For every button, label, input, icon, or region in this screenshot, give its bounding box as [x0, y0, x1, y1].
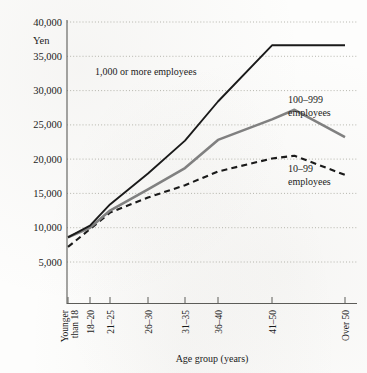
y-tick-label-40000: 40,000 — [33, 17, 62, 28]
series-label-10-99-line2: employees — [288, 176, 331, 187]
series-label-100-999-line1: 100–999 — [288, 94, 323, 105]
series-label-1000-plus: 1,000 or more employees — [95, 66, 197, 77]
chart-svg: 40,000 35,000 30,000 25,000 20,000 15,00… — [0, 0, 367, 373]
x-axis-title: Age group (years) — [176, 353, 249, 365]
x-tick-labels: Younger than 18 18–20 21–25 26–30 31–35 … — [60, 309, 351, 342]
x-tick-label-0-line1: Younger — [60, 309, 70, 342]
x-tick-label-6: 41–50 — [268, 310, 278, 334]
y-tick-label-10000: 10,000 — [33, 222, 62, 233]
x-tick-label-5: 36–40 — [214, 310, 224, 334]
y-tick-label-20000: 20,000 — [33, 154, 62, 165]
y-tick-labels: 40,000 35,000 30,000 25,000 20,000 15,00… — [33, 17, 62, 268]
y-tick-label-15000: 15,000 — [33, 188, 62, 199]
y-tick-label-35000: 35,000 — [33, 51, 62, 62]
x-tick-label-3: 26–30 — [144, 310, 154, 334]
y-tick-label-5000: 5,000 — [38, 257, 62, 268]
x-tick-label-1: 18–20 — [86, 310, 96, 334]
x-tick-label-0-line2: than 18 — [70, 310, 80, 338]
line-chart-figure: 40,000 35,000 30,000 25,000 20,000 15,00… — [0, 0, 367, 373]
x-tick-label-2: 21–25 — [106, 310, 116, 334]
y-tick-label-30000: 30,000 — [33, 85, 62, 96]
x-tick-label-4: 31–35 — [181, 310, 191, 334]
series-label-100-999-line2: employees — [288, 107, 331, 118]
y-axis-unit-label: Yen — [33, 35, 50, 46]
series-label-10-99-line1: 10–99 — [288, 163, 313, 174]
y-tick-label-25000: 25,000 — [33, 119, 62, 130]
x-tick-label-7: Over 50 — [341, 310, 351, 341]
gridlines — [67, 22, 357, 262]
x-tickmarks — [68, 297, 345, 304]
